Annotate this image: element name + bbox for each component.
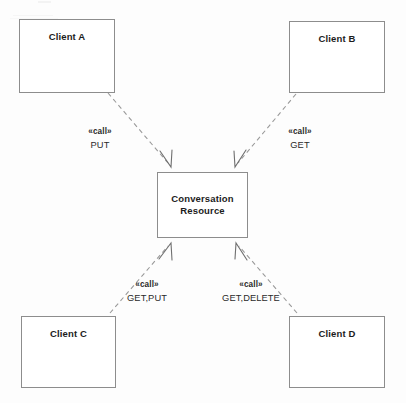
node-label-line-1: Conversation: [171, 193, 234, 204]
scan-artifact: [13, 15, 53, 16]
arrowhead-client-d: [235, 243, 247, 260]
node-label-conversation-resource: Conversation Resource: [158, 193, 247, 217]
edge-methods-client-c: GET,PUT: [110, 292, 184, 305]
edge-methods-client-b: GET: [260, 139, 340, 152]
node-client-d[interactable]: Client D: [289, 316, 385, 388]
node-label-client-b: Client B: [290, 33, 384, 45]
edge-stereotype-client-c: «call»: [110, 279, 184, 292]
edge-stereotype-client-d: «call»: [205, 279, 297, 292]
node-label-line-2: Resource: [180, 205, 225, 216]
node-conversation-resource[interactable]: Conversation Resource: [157, 172, 248, 238]
node-label-client-a: Client A: [20, 31, 114, 43]
edge-label-client-b: «call» GET: [260, 126, 340, 151]
node-client-c[interactable]: Client C: [21, 316, 116, 388]
edge-stereotype-client-a: «call»: [60, 126, 140, 139]
edge-methods-client-a: PUT: [60, 139, 140, 152]
arrowhead-client-b: [234, 150, 246, 167]
edge-label-client-a: «call» PUT: [60, 126, 140, 151]
node-label-client-c: Client C: [22, 328, 115, 340]
edge-label-client-d: «call» GET,DELETE: [205, 279, 297, 304]
edge-methods-client-d: GET,DELETE: [205, 292, 297, 305]
diagram-canvas: Client A Client B Conversation Resource …: [0, 0, 406, 403]
node-label-client-d: Client D: [290, 328, 384, 340]
edge-stereotype-client-b: «call»: [260, 126, 340, 139]
node-client-a[interactable]: Client A: [19, 19, 115, 93]
scan-artifact: [38, 1, 51, 3]
arrowhead-client-a: [160, 150, 172, 167]
edge-label-client-c: «call» GET,PUT: [110, 279, 184, 304]
arrowhead-client-c: [159, 243, 172, 260]
node-client-b[interactable]: Client B: [289, 21, 385, 93]
